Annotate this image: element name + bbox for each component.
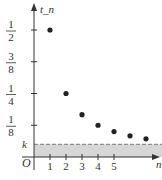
data-point [79, 112, 84, 117]
x-tick-label: 2 [63, 160, 69, 172]
svg-text:1: 1 [8, 113, 14, 125]
data-point [111, 129, 116, 134]
svg-text:1: 1 [8, 18, 14, 30]
data-point [143, 136, 148, 141]
y-tick-label: 14 [6, 82, 16, 107]
data-point [47, 27, 52, 32]
svg-text:3: 3 [8, 50, 14, 62]
svg-text:8: 8 [8, 63, 14, 75]
data-point [127, 133, 132, 138]
y-tick-label: 12 [6, 18, 16, 43]
x-tick-label: 4 [95, 160, 101, 172]
x-axis-label: n [156, 158, 162, 170]
x-tick-label: 1 [47, 160, 53, 172]
origin-label: O [22, 156, 31, 170]
y-ticks: 12381418 [6, 18, 37, 138]
svg-text:4: 4 [8, 95, 14, 107]
data-point [95, 123, 100, 128]
y-tick-label: 38 [6, 50, 16, 75]
k-label: k [22, 138, 28, 150]
data-point [63, 91, 68, 96]
svg-text:2: 2 [8, 31, 14, 43]
data-points [47, 27, 148, 141]
y-axis-arrow-icon [31, 3, 37, 11]
svg-text:1: 1 [8, 82, 14, 94]
scatter-chart: t_n n O k 12381418 12345 [0, 0, 162, 180]
y-tick-label: 18 [6, 113, 16, 138]
svg-text:8: 8 [8, 126, 14, 138]
x-tick-label: 5 [111, 160, 117, 172]
y-axis-label: t_n [40, 3, 55, 15]
x-tick-label: 3 [79, 160, 85, 172]
